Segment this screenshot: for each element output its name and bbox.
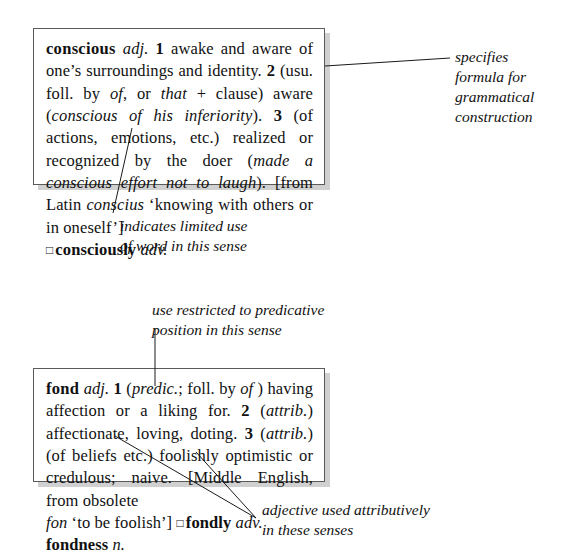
dictionary-entry-conscious: conscious adj. 1 awake and aware of one’… xyxy=(33,28,325,185)
sense-number-1: 1 xyxy=(114,379,122,398)
part-of-speech-fond: adj. xyxy=(84,379,110,398)
sense-number-3: 3 xyxy=(274,106,282,125)
sense-number-3: 3 xyxy=(245,424,253,443)
example-conscious-2: conscious of his inferiority xyxy=(52,106,253,125)
grammar-formula-of: of xyxy=(110,84,123,103)
annotation-attributive-use: adjective used attributively in these se… xyxy=(262,500,512,540)
annotation-grammatical-formula: specifies formula for grammatical constr… xyxy=(455,47,567,128)
sense-number-1: 1 xyxy=(156,39,164,58)
usage-label-attrib-3: attrib. xyxy=(266,424,308,443)
square-bullet-icon: □ xyxy=(176,516,185,530)
dictionary-entry-fond: fond adj. 1 (predic.; foll. by of ) havi… xyxy=(33,368,325,482)
part-of-speech-conscious: adj. xyxy=(123,39,149,58)
sense-number-2: 2 xyxy=(267,61,275,80)
sense-number-2: 2 xyxy=(241,401,249,420)
grammar-formula-of: of xyxy=(240,379,253,398)
headword-conscious: conscious xyxy=(46,39,116,58)
annotation-predicative-position: use restricted to predicative position i… xyxy=(152,300,402,340)
square-bullet-icon: □ xyxy=(46,243,55,257)
annotation-limited-use: indicates limited use of word in this se… xyxy=(120,216,350,256)
etymon-conscius: conscius xyxy=(86,195,144,214)
headword-fond: fond xyxy=(46,379,79,398)
example-conscious-3: made a conscious effort not to laugh xyxy=(46,151,313,192)
leader-line-formula xyxy=(325,58,450,66)
grammar-formula-that: that xyxy=(161,84,187,103)
usage-label-predic: predic. xyxy=(132,379,178,398)
usage-label-attrib-2: attrib. xyxy=(266,401,308,420)
